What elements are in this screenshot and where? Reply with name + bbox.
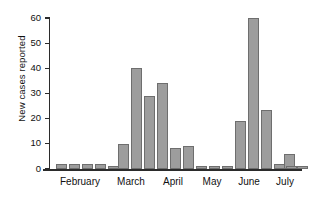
y-tick-mark	[45, 118, 50, 119]
y-tick-mark	[45, 68, 50, 69]
y-tick-mark	[45, 143, 50, 144]
y-tick-mark	[45, 168, 50, 169]
x-axis-label: February	[60, 176, 100, 187]
x-axis-label: March	[117, 176, 145, 187]
bar	[82, 164, 93, 169]
bar	[297, 166, 308, 169]
bar	[131, 68, 142, 169]
bar	[118, 144, 129, 169]
bar	[261, 110, 272, 169]
y-tick-mark	[45, 17, 50, 18]
bar	[209, 166, 220, 169]
bar	[183, 146, 194, 169]
y-tick-mark	[45, 93, 50, 94]
y-tick-label: 60	[30, 12, 41, 23]
bar	[69, 164, 80, 169]
plot-area: 0102030405060	[50, 18, 301, 169]
y-tick-mark	[45, 43, 50, 44]
epidemic-curve-figure: New cases reported 0102030405060 Februar…	[0, 0, 309, 202]
bar	[170, 148, 181, 169]
y-tick-label: 0	[36, 163, 41, 174]
y-tick-label: 20	[30, 112, 41, 123]
bar	[235, 121, 246, 169]
bar	[286, 166, 297, 169]
bar	[157, 83, 168, 169]
x-axis-label: July	[276, 176, 294, 187]
x-axis-label: April	[163, 176, 183, 187]
bar	[196, 166, 207, 169]
bar	[144, 96, 155, 169]
x-axis-line	[43, 169, 302, 171]
bar	[248, 18, 259, 169]
bar	[222, 166, 233, 169]
bar	[95, 164, 106, 169]
y-tick-label: 30	[30, 87, 41, 98]
y-tick-label: 40	[30, 62, 41, 73]
y-axis-label: New cases reported	[16, 9, 27, 149]
bar	[56, 164, 67, 169]
x-axis-label: May	[203, 176, 222, 187]
y-tick-label: 10	[30, 137, 41, 148]
x-axis-label: June	[238, 176, 260, 187]
y-tick-label: 50	[30, 37, 41, 48]
